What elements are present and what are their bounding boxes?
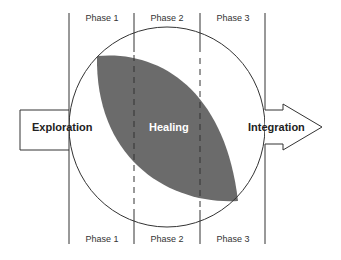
phase-label-top-2: Phase 2 [134,13,200,23]
phase-label-top-3: Phase 3 [200,13,266,23]
phase-label-bottom-2: Phase 2 [134,234,200,244]
healing-label: Healing [149,121,189,133]
exploration-label: Exploration [32,121,93,133]
phase-label-bottom-3: Phase 3 [200,234,266,244]
integration-label: Integration [248,121,305,133]
phase-label-bottom-1: Phase 1 [69,234,135,244]
phase-label-top-1: Phase 1 [69,13,135,23]
